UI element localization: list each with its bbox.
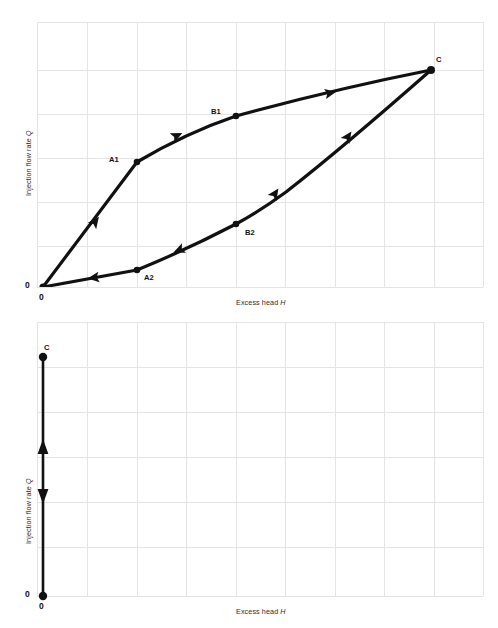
y-axis-label-symbol: Q xyxy=(24,478,33,484)
marker-A1 xyxy=(134,159,141,166)
unloading-direction-arrowheads xyxy=(87,129,356,284)
y-axis-label-text: Injection flow rate xyxy=(24,484,33,544)
data-point-markers xyxy=(39,66,435,291)
point-label-C: C xyxy=(436,55,441,64)
y-origin-label: 0 xyxy=(25,280,30,290)
x-origin-label: 0 xyxy=(39,601,44,611)
x-axis-label-symbol: H xyxy=(280,298,285,307)
x-axis-label-symbol: H xyxy=(280,607,285,616)
y-axis-label: Injection flow rate Q xyxy=(24,130,33,196)
x-axis-label: Excess head H xyxy=(236,607,286,616)
panel-hysteresis-loop: A1 B1 C B2 A2 0 0 Excess head H Injectio… xyxy=(0,0,498,314)
arrowhead-up-right-icon xyxy=(268,186,283,201)
marker-C xyxy=(39,353,47,361)
marker-origin xyxy=(39,592,47,600)
point-label-B2: B2 xyxy=(245,228,255,237)
marker-B1 xyxy=(233,113,240,120)
grid-lines xyxy=(37,22,483,287)
arrowhead-up-icon xyxy=(38,439,49,454)
point-label-A2: A2 xyxy=(144,273,154,282)
x-axis-label-text: Excess head xyxy=(236,298,280,307)
point-label-C: C xyxy=(44,343,49,352)
marker-B2 xyxy=(233,221,240,228)
figure-page: A1 B1 C B2 A2 0 0 Excess head H Injectio… xyxy=(0,0,498,628)
y-axis-label: Injection flow rate Q xyxy=(24,478,33,544)
marker-origin xyxy=(39,283,46,290)
y-axis-label-text: Injection flow rate xyxy=(24,136,33,196)
y-origin-label: 0 xyxy=(25,589,30,599)
unloading-branch-curve xyxy=(43,70,431,287)
point-label-B1: B1 xyxy=(211,107,221,116)
grid-lines xyxy=(37,322,483,596)
flow-range-arrow xyxy=(38,353,49,600)
x-origin-label: 0 xyxy=(39,292,44,302)
panel-max-flow-range: C Maximum recorded flow rate is approxim… xyxy=(0,314,498,628)
point-label-A1: A1 xyxy=(109,155,119,164)
hysteresis-plot-canvas xyxy=(0,0,498,314)
x-axis-label: Excess head H xyxy=(236,298,286,307)
loading-branch-curve xyxy=(43,70,431,287)
marker-C xyxy=(427,66,435,74)
x-axis-label-text: Excess head xyxy=(236,607,280,616)
marker-A2 xyxy=(134,267,141,274)
y-axis-label-symbol: Q xyxy=(24,130,33,136)
max-flow-plot-canvas xyxy=(0,314,498,628)
